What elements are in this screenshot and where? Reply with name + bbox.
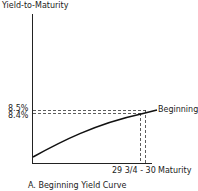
yield-curve-chart [0, 0, 198, 191]
y-tick-8-4: 8.4% [8, 111, 28, 120]
series-label: Beginning [158, 105, 198, 114]
x-axis-label: Maturity [158, 166, 191, 175]
x-tick: 29 3/4 - 30 [112, 166, 156, 175]
chart-caption: A. Beginning Yield Curve [28, 181, 126, 190]
beginning-curve [33, 110, 157, 157]
